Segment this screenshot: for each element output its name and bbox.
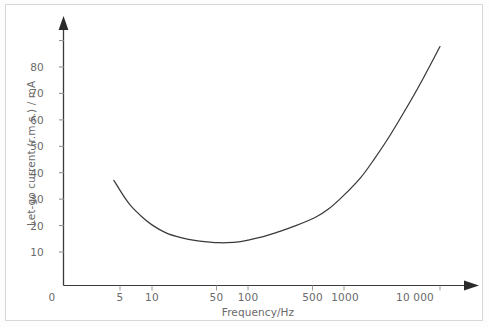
y-tick-label-80: 80: [18, 61, 44, 73]
x-tick-marks: [120, 286, 440, 291]
x-axis-title: Frequency/Hz: [222, 306, 294, 318]
x-tick-label-500: 500: [302, 291, 323, 303]
x-tick-label-50: 50: [210, 291, 224, 303]
y-tick-label-10: 10: [18, 246, 44, 258]
y-axis-title: Let-go current (r.m.s.) / mA: [25, 81, 37, 226]
plot-area: [0, 0, 489, 327]
x-tick-label-10000: 10 000: [396, 291, 434, 303]
x-axis-arrowhead: [464, 280, 479, 290]
x-tick-label-5: 5: [117, 291, 124, 303]
chart-figure: 10 20 30 40 50 60 70 80 0 5 10 50 100 50…: [0, 0, 489, 327]
x-tick-label-1000: 1000: [331, 291, 359, 303]
data-series-line: [114, 47, 440, 243]
y-axis-arrowhead: [59, 16, 69, 30]
x-tick-label-0: 0: [49, 291, 56, 303]
x-tick-label-10: 10: [145, 291, 159, 303]
x-tick-label-100: 100: [238, 291, 259, 303]
